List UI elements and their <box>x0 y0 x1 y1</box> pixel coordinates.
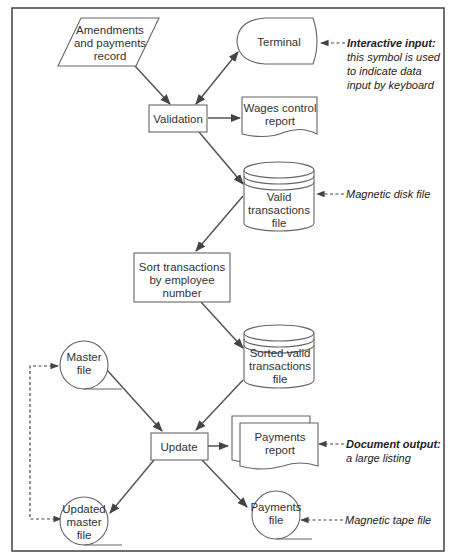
node-terminal: Terminal <box>237 18 317 64</box>
svg-text:report: report <box>265 115 296 127</box>
svg-text:Payments: Payments <box>250 501 301 513</box>
svg-text:file: file <box>269 514 284 526</box>
svg-text:report: report <box>265 444 296 456</box>
svg-text:file: file <box>77 364 92 376</box>
svg-text:Master: Master <box>66 351 101 363</box>
svg-text:to indicate data: to indicate data <box>347 65 422 77</box>
svg-text:Payments: Payments <box>254 431 305 443</box>
payroll-flowchart: Amendments and payments record Terminal … <box>0 0 450 559</box>
svg-text:file: file <box>77 529 92 541</box>
node-validation: Validation <box>149 105 207 132</box>
svg-text:Update: Update <box>160 441 197 453</box>
svg-text:by employee: by employee <box>149 274 214 286</box>
node-sorted-valid-transactions-file: Sorted valid transactions file <box>244 325 314 388</box>
svg-text:a large listing: a large listing <box>346 452 412 464</box>
svg-text:Valid: Valid <box>267 191 292 203</box>
svg-text:Amendments: Amendments <box>76 24 144 36</box>
svg-text:transactions: transactions <box>248 204 310 216</box>
svg-text:file: file <box>272 217 287 229</box>
svg-text:Updated: Updated <box>62 503 105 515</box>
svg-text:Validation: Validation <box>153 113 203 125</box>
node-payments-report: Payments report <box>232 416 318 469</box>
svg-text:Document output:: Document output: <box>346 438 441 450</box>
svg-text:this symbol is used: this symbol is used <box>347 51 441 63</box>
svg-text:Magnetic tape file: Magnetic tape file <box>345 514 431 526</box>
svg-text:input by keyboard: input by keyboard <box>347 79 435 91</box>
svg-text:file: file <box>273 373 288 385</box>
node-valid-transactions-file: Valid transactions file <box>244 162 314 231</box>
svg-text:Sort transactions: Sort transactions <box>139 261 226 273</box>
svg-text:Wages control: Wages control <box>243 102 316 114</box>
svg-text:and payments: and payments <box>74 37 146 49</box>
node-sort-transactions: Sort transactions by employee number <box>134 253 230 302</box>
svg-text:Terminal: Terminal <box>257 36 300 48</box>
svg-text:record: record <box>94 50 127 62</box>
svg-text:master: master <box>66 516 101 528</box>
svg-text:Magnetic disk file: Magnetic disk file <box>346 188 430 200</box>
svg-text:number: number <box>163 287 202 299</box>
svg-text:Sorted valid: Sorted valid <box>250 347 311 359</box>
node-update: Update <box>151 433 208 460</box>
svg-text:transactions: transactions <box>249 360 311 372</box>
svg-text:Interactive input:: Interactive input: <box>347 37 436 49</box>
